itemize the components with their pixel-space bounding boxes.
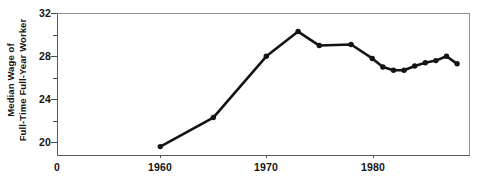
y-axis-title-line-2: Full-Time Full-Year Worker [17,19,29,142]
data-point-1978 [348,42,353,47]
y-tick-label-20: 20 [39,136,51,148]
y-tick-label-32: 32 [39,7,51,19]
data-point-1960 [158,144,163,149]
y-tick-label-24: 24 [39,93,51,105]
data-point-1973 [295,29,300,34]
plot-area [57,13,470,156]
chart-figure: Median Wage of Full-Time Full-Year Worke… [0,0,483,184]
data-point-1982 [391,68,396,73]
y-axis-title-line-1: Median Wage of [5,19,17,142]
y-axis-title: Median Wage of Full-Time Full-Year Worke… [0,0,34,160]
data-point-1981 [380,64,385,69]
data-point-1970 [264,54,269,59]
data-point-1983 [401,68,406,73]
x-tick-label-1960: 1960 [148,161,172,173]
y-axis-title-text: Median Wage of Full-Time Full-Year Worke… [5,19,29,142]
data-point-1986 [433,58,438,63]
origin-label: 0 [54,161,60,173]
data-point-1965 [211,115,216,120]
data-point-1980 [370,56,375,61]
line-series-markers [158,29,460,149]
data-point-1985 [423,60,428,65]
data-point-1984 [412,63,417,68]
line-series-svg [58,14,469,155]
data-point-1987 [444,54,449,59]
y-tick-label-28: 28 [39,50,51,62]
data-point-1988 [454,61,459,66]
x-tick-label-1980: 1980 [361,161,385,173]
data-point-1975 [317,43,322,48]
line-series-path [160,32,457,147]
x-tick-label-1970: 1970 [254,161,278,173]
